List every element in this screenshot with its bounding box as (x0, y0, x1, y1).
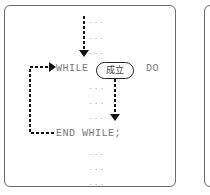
exit-arrow-head-icon (110, 114, 120, 121)
loop-arrow-head-icon (49, 62, 56, 72)
entry-arrow-head-icon (79, 50, 89, 57)
loop-back-arrow-line (30, 67, 54, 133)
flow-arrows (0, 0, 210, 195)
